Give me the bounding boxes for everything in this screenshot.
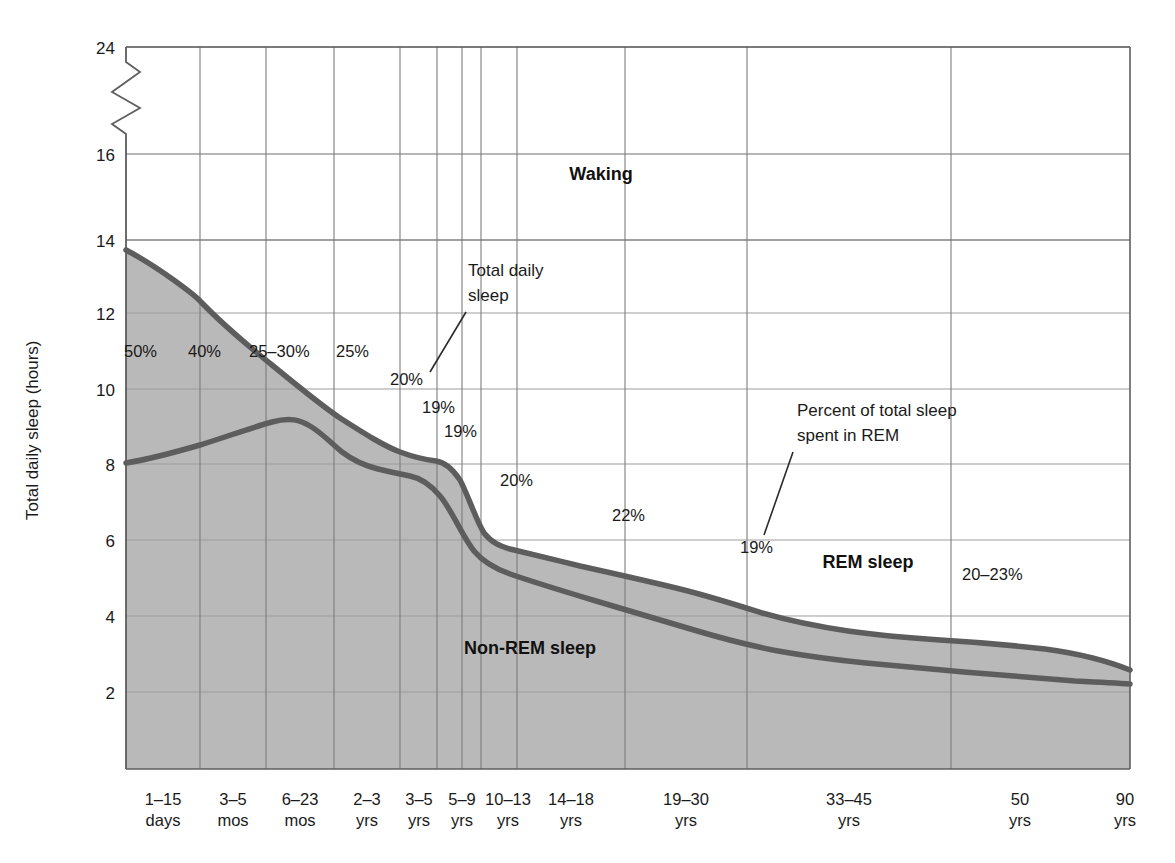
ytick-24: 24 <box>96 39 115 58</box>
xtick-10-bottom: yrs <box>1009 811 1031 829</box>
pct-label-11: 20–23% <box>962 565 1023 583</box>
xtick-7-bottom: yrs <box>560 811 582 829</box>
pct-label-10: 19% <box>740 538 773 556</box>
ytick-14: 14 <box>96 232 115 251</box>
total-daily-sleep-area-chart: 24 16 14 12 10 8 6 4 2 Total daily sleep… <box>0 0 1175 863</box>
xtick-4-bottom: yrs <box>408 811 430 829</box>
sleep-chart-figure: 24 16 14 12 10 8 6 4 2 Total daily sleep… <box>0 0 1175 863</box>
callout-total-line2: sleep <box>468 286 509 305</box>
xtick-3-top: 2–3 <box>353 790 381 808</box>
xtick-6-top: 10–13 <box>485 790 531 808</box>
pct-label-6: 19% <box>422 398 455 416</box>
region-label-waking: Waking <box>569 164 632 184</box>
ytick-16: 16 <box>96 146 115 165</box>
ytick-12: 12 <box>96 305 115 324</box>
xtick-2-bottom: mos <box>284 811 315 829</box>
pct-label-1: 50% <box>124 342 157 360</box>
y-axis-title: Total daily sleep (hours) <box>23 340 42 520</box>
pct-label-5: 20% <box>390 370 423 388</box>
xtick-0-bottom: days <box>146 811 181 829</box>
y-axis-tick-labels: 24 16 14 12 10 8 6 4 2 <box>96 39 115 703</box>
xtick-5-bottom: yrs <box>451 811 473 829</box>
ytick-2: 2 <box>106 684 115 703</box>
xtick-8-top: 19–30 <box>663 790 709 808</box>
pct-label-8: 20% <box>500 471 533 489</box>
ytick-6: 6 <box>106 532 115 551</box>
xtick-11-top: 90 <box>1116 790 1134 808</box>
region-label-non-rem-sleep: Non-REM sleep <box>464 638 596 658</box>
xtick-1-top: 3–5 <box>219 790 247 808</box>
pct-label-3: 25–30% <box>249 342 310 360</box>
xtick-5-top: 5–9 <box>448 790 476 808</box>
callout-rem-line2: spent in REM <box>797 426 899 445</box>
xtick-11-bottom: yrs <box>1114 811 1136 829</box>
xtick-8-bottom: yrs <box>675 811 697 829</box>
callout-total-line1: Total daily <box>468 261 544 280</box>
pct-label-4: 25% <box>336 342 369 360</box>
xtick-3-bottom: yrs <box>356 811 378 829</box>
pct-label-9: 22% <box>612 506 645 524</box>
pct-label-7: 19% <box>444 422 477 440</box>
ytick-8: 8 <box>106 456 115 475</box>
xtick-7-top: 14–18 <box>548 790 594 808</box>
xtick-0-top: 1–15 <box>145 790 182 808</box>
xtick-4-top: 3–5 <box>405 790 433 808</box>
callout-rem-line1: Percent of total sleep <box>797 401 957 420</box>
ytick-10: 10 <box>96 381 115 400</box>
region-label-rem-sleep: REM sleep <box>822 552 913 572</box>
xtick-6-bottom: yrs <box>497 811 519 829</box>
xtick-1-bottom: mos <box>217 811 248 829</box>
xtick-10-top: 50 <box>1011 790 1029 808</box>
xtick-2-top: 6–23 <box>282 790 319 808</box>
pct-label-2: 40% <box>188 342 221 360</box>
xtick-9-bottom: yrs <box>838 811 860 829</box>
xtick-9-top: 33–45 <box>826 790 872 808</box>
ytick-4: 4 <box>106 608 115 627</box>
x-axis-tick-labels: 1–15 days 3–5 mos 6–23 mos 2–3 yrs 3–5 y… <box>145 790 1136 829</box>
